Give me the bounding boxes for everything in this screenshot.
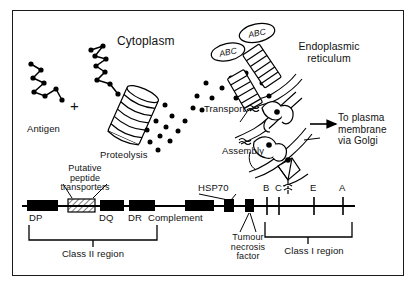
bound-peptide-dot-2 [266,142,272,148]
antigen-label: Antigen [27,124,60,135]
putative-peptide-transporters-label: Putative peptide transporters [46,164,124,193]
antigen-chain-residues [28,61,64,102]
gene-box-dr [129,200,155,211]
gene-box-dp [27,200,58,211]
class-i-region-label: Class I region [278,246,350,257]
bound-peptide-dot-3 [274,109,280,115]
gene-label-dp: DP [29,213,42,224]
gene-box-tnf [245,199,254,212]
class-ii-region-bracket [29,225,157,247]
endoplasmic-reticulum-label: Endoplasmic reticulum [290,40,368,64]
gene-label-dq: DQ [99,213,113,224]
export-guide-line [304,138,320,140]
gene-label-a: A [339,183,345,194]
assembly-label: Assembly [222,146,264,157]
class-ii-region-label: Class II region [53,249,133,260]
cytoplasm-label: Cytoplasm [117,36,175,47]
plus-sign-label: + [70,101,79,112]
gene-label-complement: Complement [148,213,203,224]
gene-label-b: B [263,183,269,194]
tnf-callout-leader [240,213,256,232]
proteolysis-label: Proteolysis [100,150,148,161]
gene-box-hsp70 [224,199,234,212]
transport-label: Transport [204,104,245,115]
bound-peptide-dot [285,157,291,163]
hsp70-label: HSP70 [198,183,229,194]
class-i-region-bracket [265,222,352,244]
gene-label-e: E [310,183,316,194]
to-plasma-membrane-label: To plasma membrane via Golgi [338,112,387,147]
gene-label-dr: DR [128,213,142,224]
gene-box-dq [100,200,124,211]
gene-box-complement [185,200,214,211]
proteasome-barrel-icon [106,82,160,147]
mhc-class-i-molecule-icon [262,102,293,132]
figure-canvas: Antigen + Cytoplasm Proteolysis ABC ABC … [0,0,416,290]
gene-box-peptide-transporters [68,199,95,212]
entering-chain-residues [88,43,120,96]
tumour-necrosis-factor-label: Tumour necrosis factor [222,233,274,262]
gene-label-c: C [275,183,282,194]
